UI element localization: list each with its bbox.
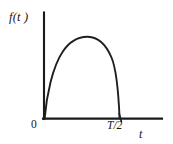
x-axis-tick-label-t-half: T/2 xyxy=(107,120,122,132)
y-axis-label: f(t ) xyxy=(9,11,28,24)
half-sine-curve xyxy=(45,37,120,119)
x-axis-label: t xyxy=(139,128,142,140)
origin-label: 0 xyxy=(31,119,37,131)
function-plot-figure: f(t ) 0 T/2 t xyxy=(0,0,173,144)
